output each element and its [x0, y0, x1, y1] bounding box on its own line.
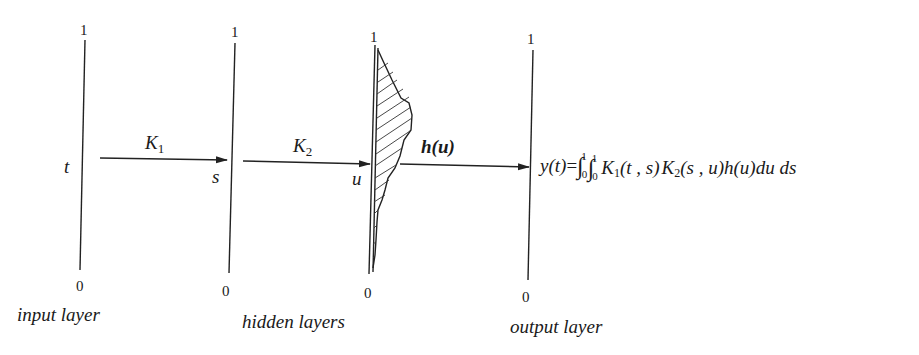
output-layer-bottom-label: 0 — [522, 289, 530, 305]
arrow-h-label: h(u) — [421, 136, 455, 158]
output-layer-top-label: 1 — [527, 31, 535, 47]
output-layer: 1 0 output layer — [510, 31, 603, 337]
hidden-layer-s: 1 0 s — [212, 24, 239, 299]
input-layer-bottom-label: 0 — [76, 278, 84, 294]
hidden-layer-s-bottom-label: 0 — [222, 283, 230, 299]
hidden-layer-u: 1 0 u — [352, 29, 412, 301]
arrow-k1: K1 — [100, 132, 227, 160]
arrow-h-line — [400, 164, 529, 167]
hidden-layer-s-top-label: 1 — [231, 24, 239, 40]
input-layer: 1 0 t input layer — [17, 22, 100, 325]
continuous-neural-network-diagram: 1 0 t input layer K1 1 0 s K2 1 0 u — [0, 0, 919, 355]
arrow-k1-label: K1 — [144, 132, 164, 156]
hidden-layer-u-bottom-label: 0 — [364, 285, 372, 301]
input-layer-caption: input layer — [17, 304, 100, 325]
output-layer-caption: output layer — [510, 316, 603, 337]
arrow-k1-line — [100, 158, 227, 160]
output-equation: y(t)=∫01∫01K1(t , s)K2(s , u)h(u)du ds — [538, 150, 796, 183]
arrow-k2-line — [243, 161, 370, 164]
input-layer-axis — [80, 40, 85, 270]
hatch-lines — [373, 63, 412, 258]
input-variable-t: t — [64, 156, 70, 177]
arrow-k2-label: K2 — [292, 135, 312, 159]
arrow-k2: K2 — [243, 135, 370, 164]
hidden-variable-s: s — [212, 166, 219, 187]
arrow-h: h(u) — [400, 136, 529, 167]
hidden-layers-caption: hidden layers — [242, 311, 345, 332]
hidden-variable-u: u — [352, 168, 362, 189]
input-layer-top-label: 1 — [80, 22, 88, 38]
equation-text: y(t)=∫01∫01K1(t , s)K2(s , u)h(u)du ds — [538, 150, 796, 183]
output-layer-axis — [528, 50, 533, 280]
hidden-layer-s-axis — [229, 43, 235, 273]
weight-function-profile — [373, 50, 412, 268]
hidden-layer-u-top-label: 1 — [370, 29, 378, 45]
